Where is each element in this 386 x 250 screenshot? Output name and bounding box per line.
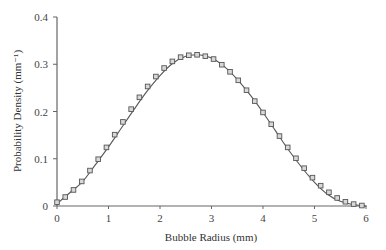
data-point-marker xyxy=(302,166,307,171)
x-tick-label: 5 xyxy=(312,212,318,224)
data-point-marker xyxy=(187,53,192,58)
data-point-marker xyxy=(55,200,60,205)
data-point-marker xyxy=(294,156,299,161)
x-axis-label: Bubble Radius (mm) xyxy=(165,231,258,244)
data-point-marker xyxy=(195,53,200,58)
data-point-marker xyxy=(252,99,257,104)
data-point-marker xyxy=(343,199,348,204)
data-point-marker xyxy=(104,145,109,150)
data-point-marker xyxy=(154,74,159,79)
x-tick-label: 0 xyxy=(54,212,60,224)
data-point-marker xyxy=(327,190,332,195)
x-tick-label: 2 xyxy=(157,212,163,224)
data-point-marker xyxy=(228,70,233,75)
data-point-marker xyxy=(79,179,84,184)
x-tick-label: 1 xyxy=(106,212,112,224)
data-point-marker xyxy=(137,95,142,100)
y-tick-label: 0.1 xyxy=(34,153,48,165)
data-point-marker xyxy=(310,175,315,180)
data-point-marker xyxy=(236,78,241,83)
data-point-marker xyxy=(121,120,126,125)
probability-density-chart: 012345600.10.20.30.4 Bubble Radius (mm) … xyxy=(0,0,386,250)
data-point-marker xyxy=(269,122,274,127)
data-point-marker xyxy=(285,145,290,150)
data-point-marker xyxy=(162,66,167,71)
data-point-marker xyxy=(351,202,356,207)
data-point-marker xyxy=(360,203,365,208)
axes: 012345600.10.20.30.4 xyxy=(34,11,369,224)
data-point-markers xyxy=(55,53,364,208)
data-point-marker xyxy=(112,132,117,137)
x-tick-label: 4 xyxy=(260,212,266,224)
data-point-marker xyxy=(63,195,68,200)
data-point-marker xyxy=(335,196,340,201)
data-point-marker xyxy=(244,88,249,93)
data-point-marker xyxy=(277,134,282,139)
data-point-marker xyxy=(261,110,266,115)
data-point-marker xyxy=(88,168,93,173)
y-tick-label: 0.4 xyxy=(34,11,48,23)
data-point-marker xyxy=(145,84,150,89)
data-point-marker xyxy=(220,62,225,67)
data-point-marker xyxy=(129,107,134,112)
y-tick-label: 0 xyxy=(43,200,49,212)
x-tick-label: 3 xyxy=(209,212,215,224)
y-tick-label: 0.3 xyxy=(34,58,48,70)
x-tick-label: 6 xyxy=(363,212,369,224)
data-point-marker xyxy=(170,59,175,64)
data-point-marker xyxy=(211,57,216,62)
data-point-marker xyxy=(96,157,101,162)
y-axis-label: Probability Density (mm⁻¹) xyxy=(11,50,24,172)
data-point-marker xyxy=(203,54,208,59)
data-point-marker xyxy=(178,55,183,60)
data-point-marker xyxy=(318,183,323,188)
data-point-marker xyxy=(71,188,76,193)
y-tick-label: 0.2 xyxy=(34,106,48,118)
